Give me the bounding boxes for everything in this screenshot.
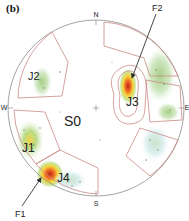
north-label: N [93,11,98,18]
south-label: S [94,200,99,207]
domain-label-s0: S0 [64,113,81,129]
domain-label-j1: J1 [22,141,35,155]
domain-label-j4: J4 [57,171,70,185]
west-label: W [1,104,8,111]
domain-label-j3: J3 [126,95,139,109]
domain-label-j2: J2 [28,70,40,82]
annotation-f1: F1 [15,209,26,219]
east-label: E [185,104,189,111]
annotation-f2: F2 [152,3,163,13]
stereonet: N S W E J2 S0 J1 J4 J3 F2 F1 [0,0,189,221]
f1-arrow [22,178,41,206]
